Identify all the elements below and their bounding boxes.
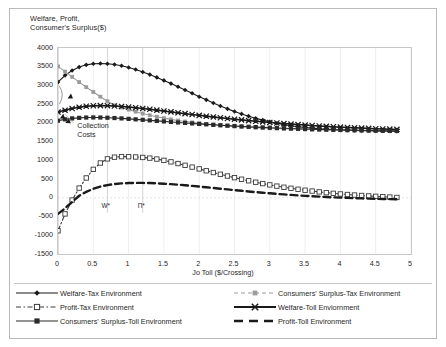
y-tick-label: 4000 [23,43,53,52]
legend-label: Profit-Tax Environment [60,303,134,312]
legend-label: Profit-Toll Environment [278,317,351,326]
legend-item[interactable]: Consumers' Surplus-Toll Environment [14,314,232,328]
marker-label-pi-star: Π* [138,202,145,209]
legend-label: Consumers' Surplus-Toll Environment [60,317,182,326]
y-tick-label: -1000 [23,230,53,239]
legend-key-icon [232,315,278,327]
x-tick-label: 5 [397,259,423,268]
legend-key-icon [232,301,278,313]
x-tick-label: 2.5 [221,259,247,268]
y-tick-label: 500 [23,174,53,183]
legend-key-icon [14,301,60,313]
x-tick-label: 3.5 [291,259,317,268]
y-tick-label: 1000 [23,155,53,164]
plot-area [57,47,412,255]
x-axis-title: Jo Toll ($/Crossing) [0,268,446,277]
x-tick-label: 4.5 [362,259,388,268]
x-tick-label: 4 [326,259,352,268]
legend-item[interactable]: Welfare-Tax Environment [14,286,232,300]
legend-item[interactable]: Profit-Toll Environment [232,314,432,328]
series-1 [58,61,399,133]
chart-page: Welfare, Profit, Consumer's Surplus($) 4… [0,0,446,347]
y-tick-label: 3500 [23,61,53,70]
x-tick-label: 3 [256,259,282,268]
y-tick-label: 0 [23,192,53,201]
legend-item[interactable]: Profit-Tax Environment [14,300,232,314]
series-canvas [58,48,411,254]
y-tick-label: 2500 [23,99,53,108]
legend: Welfare-Tax EnvironmentConsumers' Surplu… [14,283,432,332]
legend-item[interactable]: Welfare-Toll Enviornment [232,300,432,314]
legend-key-icon [232,287,278,299]
legend-key-icon [14,287,60,299]
legend-item[interactable]: Consumers' Surplus-Tax Environment [232,286,432,300]
x-tick-label: 1.5 [150,259,176,268]
series-3 [58,154,399,233]
marker-label-w-star: W* [101,202,110,209]
legend-label: Welfare-Tax Environment [60,289,142,298]
annotation-collection-costs: Collection Costs [77,121,109,139]
x-tick-label: 0 [44,259,70,268]
x-tick-label: 1 [115,259,141,268]
series-6 [58,183,397,214]
legend-key-icon [14,315,60,327]
y-axis-title: Welfare, Profit, Consumer's Surplus($) [30,14,106,33]
y-tick-label: -500 [23,211,53,220]
y-tick-label: 3000 [23,80,53,89]
y-tick-label: 1500 [23,136,53,145]
x-tick-label: 2 [185,259,211,268]
legend-label: Consumers' Surplus-Tax Environment [278,289,400,298]
y-tick-label: -1500 [23,249,53,258]
series-2 [58,64,399,132]
y-tick-label: 2000 [23,117,53,126]
x-tick-label: 0.5 [79,259,105,268]
legend-label: Welfare-Toll Enviornment [278,303,359,312]
